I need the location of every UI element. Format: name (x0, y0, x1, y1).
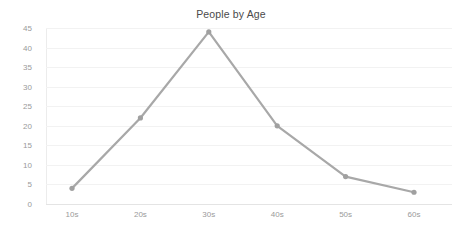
chart-title: People by Age (0, 8, 462, 20)
x-tick-label: 20s (115, 210, 165, 219)
y-tick-label: 10 (0, 160, 32, 169)
series-marker-group (69, 29, 416, 195)
data-point-marker[interactable] (411, 190, 416, 195)
data-point-marker[interactable] (343, 174, 348, 179)
x-tick-label: 50s (321, 210, 371, 219)
chart-container: People by Age 051015202530354045 10s20s3… (0, 0, 462, 234)
line-series-svg (46, 28, 452, 204)
y-tick-label: 30 (0, 82, 32, 91)
x-tick-label: 40s (252, 210, 302, 219)
plot-area: 051015202530354045 10s20s30s40s50s60s (46, 28, 452, 204)
y-tick-label: 45 (0, 24, 32, 33)
x-tick-label: 30s (184, 210, 234, 219)
series-line (72, 32, 414, 192)
x-tick-label: 60s (389, 210, 439, 219)
y-tick-label: 35 (0, 63, 32, 72)
y-tick-label: 0 (0, 200, 32, 209)
data-point-marker[interactable] (69, 186, 74, 191)
data-point-marker[interactable] (206, 29, 211, 34)
data-point-marker[interactable] (138, 115, 143, 120)
data-point-marker[interactable] (275, 123, 280, 128)
x-tick-label: 10s (47, 210, 97, 219)
y-tick-label: 40 (0, 43, 32, 52)
y-tick-label: 25 (0, 102, 32, 111)
y-tick-label: 20 (0, 121, 32, 130)
y-gridline (46, 204, 452, 205)
y-tick-label: 5 (0, 180, 32, 189)
y-tick-label: 15 (0, 141, 32, 150)
